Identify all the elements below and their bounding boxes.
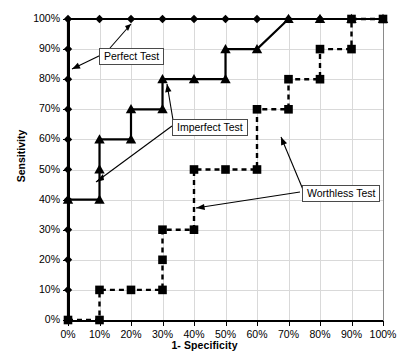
data-point-marker [64,75,72,83]
data-point-marker [190,225,199,234]
data-point-marker [95,15,103,23]
data-point-marker [253,165,262,174]
callout-leader-line [96,126,172,182]
data-point-marker [64,226,72,234]
data-point-marker [190,165,199,174]
data-point-marker [94,164,104,173]
data-point-marker [347,15,356,24]
data-point-marker [64,316,73,325]
data-point-marker [158,15,166,23]
data-point-marker [284,105,293,114]
data-point-marker [95,286,104,295]
data-point-marker [158,225,167,234]
data-point-marker [221,165,230,174]
data-point-marker [64,45,72,53]
data-series-layer [0,0,409,354]
data-point-marker [253,105,262,114]
data-point-marker [158,256,167,265]
data-point-marker [316,45,325,54]
data-point-marker [221,15,229,23]
data-point-marker [316,75,325,84]
data-point-marker [158,286,167,295]
data-point-marker [127,15,135,23]
callout-leader-line [196,192,300,208]
callout-imperfect-test: Imperfect Test [172,119,248,136]
data-point-marker [347,45,356,54]
data-point-marker [127,286,136,295]
callout-arrowhead [165,84,171,92]
y-axis-title: Sensitivity [15,101,27,211]
data-point-marker [64,135,72,143]
callout-leader-line [281,137,304,192]
x-axis-title: 1- Specificity [0,339,409,351]
data-point-marker [95,316,104,325]
data-point-marker [253,15,261,23]
data-point-marker [64,15,72,23]
data-point-marker [64,286,72,294]
callout-arrowhead [72,63,81,69]
data-point-marker [190,15,198,23]
data-point-marker [379,15,388,24]
data-point-marker [64,256,72,264]
callout-arrowhead [196,204,205,210]
data-point-marker [284,75,293,84]
callout-arrowhead [281,137,287,146]
roc-chart-figure: 0%10%20%30%40%50%60%70%80%90%100% 0%10%2… [0,0,409,354]
callout-worthless-test: Worthless Test [302,185,380,202]
data-point-marker [64,105,72,113]
data-point-marker [64,165,72,173]
callout-perfect-test: Perfect Test [99,48,164,65]
series-imperfect-test [63,14,388,204]
